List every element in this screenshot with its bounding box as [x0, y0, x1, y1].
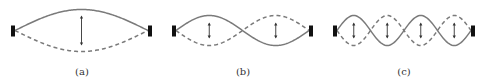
right-clamp — [471, 26, 475, 37]
double-arrow-icon — [453, 23, 456, 39]
arrow-head-down — [419, 36, 422, 39]
double-arrow-icon — [419, 23, 422, 39]
arrow-head-up — [352, 23, 355, 26]
string-solid-position — [337, 16, 471, 46]
left-clamp — [333, 26, 337, 37]
double-arrow-icon — [386, 23, 389, 39]
arrow-head-up — [274, 23, 277, 26]
left-clamp — [11, 26, 15, 37]
arrow-head-down — [453, 36, 456, 39]
right-clamp — [148, 26, 152, 37]
panel-c — [333, 16, 475, 46]
right-clamp — [309, 26, 313, 37]
arrow-head-up — [419, 23, 422, 26]
left-clamp — [172, 26, 176, 37]
panel-a-label: (a) — [75, 66, 89, 77]
arrow-head-down — [386, 36, 389, 39]
arrow-head-up — [386, 23, 389, 26]
double-arrow-icon — [352, 23, 355, 39]
panel-b — [172, 16, 313, 46]
arrow-head-up — [453, 23, 456, 26]
string-solid-position — [176, 16, 309, 46]
double-arrow-icon — [274, 23, 277, 39]
arrow-head-up — [208, 23, 211, 26]
double-arrow-icon — [80, 16, 83, 46]
arrow-head-down — [274, 36, 277, 39]
double-arrow-icon — [208, 23, 211, 39]
arrow-head-down — [208, 36, 211, 39]
arrow-head-down — [352, 36, 355, 39]
panel-b-label: (b) — [236, 66, 250, 77]
arrow-head-up — [80, 16, 83, 19]
standing-wave-diagram: (a) (b) (c) — [0, 0, 485, 82]
panel-a — [11, 10, 152, 52]
arrow-head-down — [80, 43, 83, 46]
panel-c-label: (c) — [397, 66, 411, 77]
